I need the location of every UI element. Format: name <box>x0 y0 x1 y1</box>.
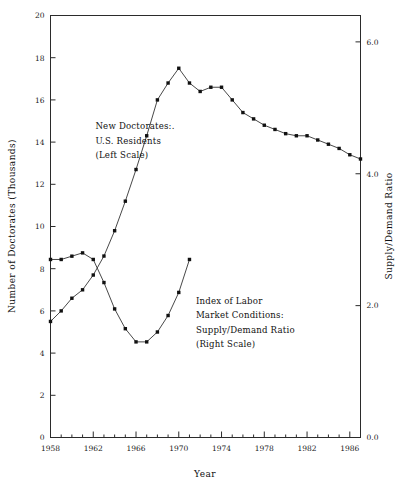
annotation-line: Market Conditions: <box>196 310 284 320</box>
data-point-marker <box>359 157 362 160</box>
annotation-line: (Left Scale) <box>95 150 148 160</box>
lower-series-label: Index of LaborMarket Conditions:Supply/D… <box>196 296 295 350</box>
dual-axis-line-chart: 02468101214161820 0.02.04.06.0 195819621… <box>0 0 400 488</box>
annotation-line: Supply/Demand Ratio <box>196 325 295 335</box>
data-point-marker <box>177 291 180 294</box>
chart-container: 02468101214161820 0.02.04.06.0 195819621… <box>0 0 400 488</box>
data-point-marker <box>295 134 298 137</box>
data-point-marker <box>252 117 255 120</box>
y-left-ticklabel: 14 <box>35 138 45 147</box>
data-point-marker <box>241 111 244 114</box>
y-left-ticklabel: 12 <box>35 180 45 189</box>
data-point-marker <box>113 307 116 310</box>
axes-rectangle <box>51 16 361 438</box>
y-right-ticklabel: 0.0 <box>367 433 379 442</box>
y-left-ticklabel: 10 <box>35 222 45 231</box>
data-point-marker <box>188 81 191 84</box>
data-point-marker <box>92 273 95 276</box>
data-point-marker <box>156 98 159 101</box>
x-ticklabel: 1986 <box>340 444 359 453</box>
data-point-marker <box>92 258 95 261</box>
data-point-marker <box>305 134 308 137</box>
x-ticklabel: 1970 <box>169 444 188 453</box>
x-ticklabel: 1978 <box>255 444 274 453</box>
data-point-marker <box>81 251 84 254</box>
data-point-marker <box>81 288 84 291</box>
annotation-line: New Doctorates:. <box>95 121 174 131</box>
data-point-marker <box>70 297 73 300</box>
data-point-marker <box>113 229 116 232</box>
data-point-marker <box>284 132 287 135</box>
data-point-marker <box>209 86 212 89</box>
data-point-marker <box>49 258 52 261</box>
data-point-marker <box>49 320 52 323</box>
annotation-line: U.S. Residents <box>95 136 161 146</box>
x-axis-ticks: 19581962196619701974197819821986 <box>41 432 361 453</box>
data-point-marker <box>102 254 105 257</box>
y-axis-right-ticks: 0.02.04.06.0 <box>356 38 379 443</box>
x-ticklabel: 1966 <box>126 444 145 453</box>
data-point-marker <box>134 168 137 171</box>
data-point-marker <box>59 309 62 312</box>
annotation-line: Index of Labor <box>196 296 263 306</box>
y-left-ticklabel: 4 <box>40 349 45 358</box>
data-point-marker <box>316 138 319 141</box>
y-axis-left-title: Number of Doctorates (Thousands) <box>7 139 17 313</box>
x-ticklabel: 1982 <box>298 444 317 453</box>
data-point-marker <box>220 86 223 89</box>
data-point-marker <box>134 340 137 343</box>
data-point-marker <box>327 143 330 146</box>
data-point-marker <box>348 153 351 156</box>
data-point-marker <box>124 199 127 202</box>
data-point-marker <box>102 281 105 284</box>
y-right-ticklabel: 2.0 <box>367 301 379 310</box>
data-point-marker <box>337 147 340 150</box>
x-ticklabel: 1962 <box>84 444 103 453</box>
y-left-ticklabel: 0 <box>40 433 45 442</box>
annotations-group: New Doctorates:.U.S. Residents(Left Scal… <box>95 121 294 349</box>
y-left-ticklabel: 2 <box>40 391 45 400</box>
series-polyline <box>51 68 361 321</box>
y-right-ticklabel: 4.0 <box>367 170 379 179</box>
y-axis-left-ticks: 02468101214161820 <box>35 11 56 442</box>
data-point-marker <box>70 254 73 257</box>
data-point-marker <box>145 340 148 343</box>
y-right-ticklabel: 6.0 <box>367 38 379 47</box>
y-axis-right-title: Supply/Demand Ratio <box>384 172 394 279</box>
data-point-marker <box>263 124 266 127</box>
y-left-ticklabel: 16 <box>35 96 45 105</box>
data-point-marker <box>177 67 180 70</box>
plot-frame <box>51 16 361 438</box>
data-point-marker <box>231 98 234 101</box>
data-point-marker <box>188 258 191 261</box>
y-left-ticklabel: 6 <box>40 307 45 316</box>
y-left-ticklabel: 18 <box>35 54 45 63</box>
upper-series-label: New Doctorates:.U.S. Residents(Left Scal… <box>95 121 174 160</box>
data-point-marker <box>166 81 169 84</box>
series-new-doctorates <box>49 67 362 324</box>
data-point-marker <box>59 258 62 261</box>
data-point-marker <box>198 90 201 93</box>
annotation-line: (Right Scale) <box>196 339 255 349</box>
data-point-marker <box>273 128 276 131</box>
series-supply-demand-ratio <box>49 251 191 343</box>
data-point-marker <box>124 327 127 330</box>
data-point-marker <box>166 314 169 317</box>
data-point-marker <box>156 330 159 333</box>
y-left-ticklabel: 8 <box>40 265 45 274</box>
x-axis-title: Year <box>193 469 216 479</box>
x-ticklabel: 1974 <box>212 444 231 453</box>
x-ticklabel: 1958 <box>41 444 60 453</box>
y-left-ticklabel: 20 <box>35 11 45 20</box>
